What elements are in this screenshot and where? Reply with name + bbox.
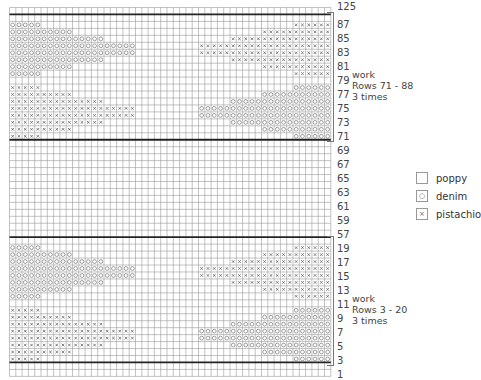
repeat-bracket-lower [327,236,334,366]
legend-denim: ○ denim [416,190,467,202]
row-label: 73 [337,118,350,128]
row-label: 19 [337,244,350,254]
knitting-chart-grid [9,7,333,378]
poppy-swatch-icon [416,172,428,184]
row-label: 15 [337,272,350,282]
repeat-note-upper-line1: work [352,69,413,80]
legend-poppy-label: poppy [436,173,467,184]
legend-pistachio: × pistachio [416,208,481,220]
repeat-note-lower-line3: 3 times [352,315,407,326]
repeat-note-lower-line2: Rows 3 - 20 [352,304,407,315]
repeat-note-upper-line2: Rows 71 - 88 [352,80,413,91]
row-label: 83 [337,48,350,58]
row-label: 65 [337,174,350,184]
repeat-note-lower-line1: work [352,293,407,304]
repeat-note-upper-line3: 3 times [352,91,413,102]
row-label: 71 [337,132,350,142]
legend-denim-label: denim [436,191,467,202]
row-label: 13 [337,286,350,296]
row-label: 79 [337,76,350,86]
row-label: 85 [337,34,350,44]
row-label: 67 [337,160,350,170]
pistachio-x-icon: × [416,208,428,220]
row-label: 63 [337,188,350,198]
repeat-bracket-upper [327,12,334,142]
row-label: 1 [337,370,343,380]
row-label: 81 [337,62,350,72]
row-label: 7 [337,328,343,338]
row-label: 69 [337,146,350,156]
row-label: 61 [337,202,350,212]
repeat-note-upper: work Rows 71 - 88 3 times [352,69,413,102]
row-label: 11 [337,300,350,310]
row-label: 125 [337,2,356,12]
row-label: 5 [337,342,343,352]
row-label: 9 [337,314,343,324]
chart-svg [9,7,333,378]
denim-circle-icon: ○ [416,190,428,202]
row-label: 87 [337,20,350,30]
row-label: 17 [337,258,350,268]
legend-pistachio-label: pistachio [436,209,481,220]
row-label: 57 [337,230,350,240]
row-label: 3 [337,356,343,366]
legend-poppy: poppy [416,172,467,184]
row-label: 59 [337,216,350,226]
row-label: 75 [337,104,350,114]
row-label: 77 [337,90,350,100]
repeat-note-lower: work Rows 3 - 20 3 times [352,293,407,326]
